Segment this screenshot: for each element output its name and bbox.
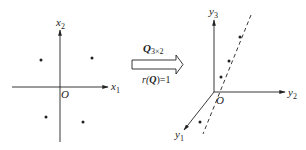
data-point	[40, 59, 43, 62]
y2-axis-label: y2	[287, 86, 297, 101]
diagram-canvas: x2 x1 O Q3×2 r(Q)=1 y3 y2	[0, 0, 306, 150]
data-point	[45, 116, 48, 119]
left-coordinate-system: x2 x1 O	[12, 16, 120, 142]
data-point	[199, 121, 202, 124]
projection-line	[203, 15, 251, 134]
matrix-label: Q3×2	[143, 42, 163, 56]
y3-axis-label: y3	[208, 5, 218, 20]
y1-axis-label: y1	[174, 128, 184, 143]
data-point	[228, 60, 231, 63]
data-point	[220, 76, 223, 79]
right-coordinate-system: y3 y2 y1 O	[174, 5, 297, 143]
hollow-arrow-shape	[132, 55, 183, 74]
left-origin-label: O	[61, 88, 69, 100]
data-point	[239, 36, 242, 39]
y1-axis	[184, 92, 214, 130]
data-point	[91, 57, 94, 60]
rank-label: r(Q)=1	[142, 74, 170, 86]
transform-arrow: Q3×2 r(Q)=1	[132, 42, 183, 86]
right-points	[199, 36, 242, 124]
data-point	[82, 121, 85, 124]
x2-axis-label: x2	[55, 16, 65, 31]
right-origin-label: O	[216, 94, 224, 106]
x1-axis-label: x1	[110, 80, 120, 95]
